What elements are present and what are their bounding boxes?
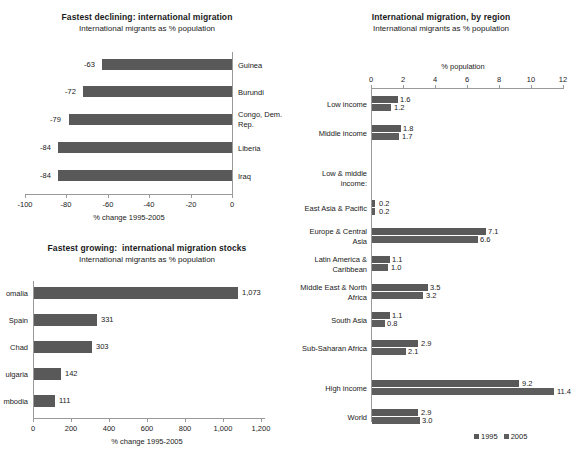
category-label-high-income: High income (297, 384, 367, 394)
bar-bulgaria (34, 368, 61, 380)
bar-high-income-1995 (372, 380, 519, 387)
tick-mark (232, 194, 233, 198)
bar-value-label: 1.2 (394, 104, 404, 112)
bar-congo (69, 114, 233, 125)
bar-value-label: -84 (40, 172, 51, 180)
tick-mark (499, 85, 500, 89)
category-label-south-asia: South Asia (297, 316, 367, 326)
bar-east-asia-pacific-1995 (372, 200, 375, 207)
category-label-cambodia: mbodia (0, 397, 28, 407)
category-label-sub-saharan-africa: Sub-Saharan Africa (297, 344, 367, 354)
plot-area-growing: 0 200 400 600 800 1,000 1,200 % change 1… (33, 281, 265, 418)
x-tick-label: -100 (17, 200, 32, 209)
legend-swatch-1995 (474, 434, 479, 439)
category-label-low-income: Low income (297, 100, 367, 110)
bar-latin-america-caribbean-1995 (372, 256, 390, 263)
x-tick-label: 12 (559, 75, 567, 84)
x-tick-label: -20 (186, 200, 197, 209)
bar-value-label: 1,073 (242, 289, 261, 297)
chart-title-text: International migration, by region (294, 12, 588, 22)
bar-guinea (102, 59, 232, 70)
bar-liberia (58, 142, 232, 153)
bar-low-income-2005 (372, 104, 391, 111)
tick-mark (71, 418, 72, 422)
chart-title: Fastest growing: international migration… (0, 243, 294, 264)
category-label-europe-central-asia: Europe & Central Asia (297, 227, 367, 246)
chart-title: Fastest declining: international migrati… (0, 12, 294, 33)
bar-value-label: -63 (84, 61, 95, 69)
tick-mark (261, 418, 262, 422)
chart-fastest-declining: Fastest declining: international migrati… (0, 0, 294, 229)
x-tick-label: 800 (179, 424, 192, 433)
legend-item-1995: 1995 (474, 432, 498, 441)
plot-area-by-region: % population 0 2 4 6 8 10 12 Low income … (371, 62, 588, 422)
x-tick-label: -40 (144, 200, 155, 209)
bar-middle-east-north-africa-2005 (372, 292, 423, 299)
chart-fastest-growing: Fastest growing: international migration… (0, 229, 294, 458)
bar-value-label: 303 (96, 343, 109, 351)
bar-middle-income-2005 (372, 133, 399, 140)
x-tick-label: -60 (103, 200, 114, 209)
x-tick-label: 0 (31, 424, 35, 433)
chart-legend: 1995 2005 (474, 432, 527, 441)
bar-somalia (34, 287, 238, 299)
bar-europe-central-asia-1995 (372, 228, 486, 235)
category-label-world: World (297, 413, 367, 423)
bar-value-label: 11.4 (557, 388, 571, 396)
category-label-east-asia-pacific: East Asia & Pacific (297, 204, 367, 214)
x-tick-label: 2 (401, 75, 405, 84)
x-axis-caption: % change 1995-2005 (93, 213, 164, 222)
bar-iraq (58, 170, 232, 181)
tick-mark (467, 85, 468, 89)
bar-value-label: 3.0 (422, 417, 432, 425)
bar-world-2005 (372, 417, 420, 424)
tick-mark (109, 418, 110, 422)
x-tick-label: 1,000 (214, 424, 233, 433)
tick-mark (435, 85, 436, 89)
bar-value-label: 111 (59, 397, 70, 405)
x-tick-label: 4 (433, 75, 437, 84)
bar-south-asia-1995 (372, 312, 390, 319)
tick-mark (108, 194, 109, 198)
x-tick-label: 8 (497, 75, 501, 84)
tick-mark (66, 194, 67, 198)
category-label-spain: Spain (0, 316, 28, 326)
bar-value-label: 9.2 (522, 380, 532, 388)
x-tick-label: 200 (65, 424, 78, 433)
x-tick-label: 10 (527, 75, 535, 84)
chart-subtitle-text: International migrants as % population (294, 24, 588, 33)
bar-low-income-1995 (372, 96, 398, 103)
bar-burundi (83, 86, 232, 97)
tick-mark (563, 85, 564, 89)
bar-sub-saharan-africa-1995 (372, 340, 418, 347)
x-axis-caption: % population (441, 62, 484, 71)
x-axis-caption: % change 1995-2005 (111, 437, 182, 446)
bar-east-asia-pacific-2005 (372, 208, 375, 215)
legend-item-2005: 2005 (504, 432, 528, 441)
chart-title-text: Fastest growing: international migration… (0, 243, 294, 253)
bar-latin-america-caribbean-2005 (372, 264, 388, 271)
bar-chad (34, 341, 92, 353)
category-label-middle-income: Middle income (297, 129, 367, 139)
legend-swatch-2005 (504, 434, 509, 439)
bar-middle-income-1995 (372, 125, 401, 132)
bar-value-label: 1.0 (391, 264, 401, 272)
x-tick-label: 0 (369, 75, 373, 84)
legend-label-1995: 1995 (481, 432, 498, 441)
category-label-congo: Congo, Dem. Rep. (238, 110, 290, 129)
bar-value-label: 0.2 (379, 208, 389, 216)
tick-mark (33, 418, 34, 422)
bar-high-income-2005 (372, 388, 554, 395)
bar-value-label: 0.8 (387, 320, 397, 328)
x-tick-label: 0 (230, 200, 234, 209)
tick-mark (147, 418, 148, 422)
bar-value-label: 6.6 (480, 236, 490, 244)
bar-value-label: -79 (50, 116, 61, 124)
bar-value-label: -84 (40, 144, 51, 152)
category-axis-line (33, 418, 265, 419)
x-tick-label: 600 (141, 424, 154, 433)
category-axis-line (25, 194, 233, 195)
bar-europe-central-asia-2005 (372, 236, 478, 243)
category-label-somalia: omalia (0, 289, 28, 299)
bar-value-label: 3.2 (426, 292, 436, 300)
